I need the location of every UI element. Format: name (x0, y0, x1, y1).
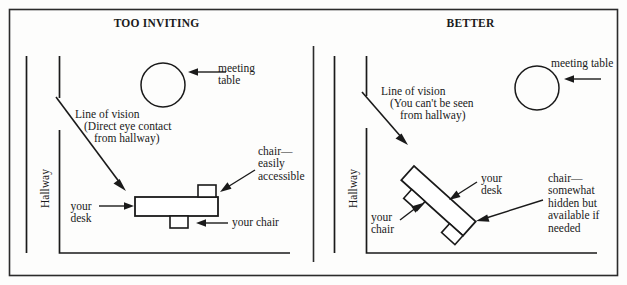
right-hallway-label: Hallway (347, 169, 359, 208)
left-line-of-vision-line1: Line of vision (75, 108, 140, 120)
right-line-of-vision-line1: Line of vision (381, 85, 446, 97)
left-meeting-table-shape (141, 63, 185, 107)
left-desk-shape (135, 197, 218, 216)
left-meeting-table-label: meeting table (218, 62, 255, 87)
left-your-desk-arrow (99, 202, 134, 210)
left-hallway-label: Hallway (39, 169, 51, 208)
right-your-chair-label: your chair (371, 211, 394, 236)
right-your-desk-arrow (449, 182, 477, 200)
right-line-of-vision-line2: (You can't be seen (390, 97, 474, 109)
right-line-of-vision-line3: from hallway) (400, 109, 465, 121)
left-chair-accessible-shape (198, 185, 216, 197)
left-line-of-vision-line2: (Direct eye contact (84, 120, 171, 132)
office-layout-figure: TOO INVITING meeting table Line of visio… (0, 0, 627, 285)
right-meeting-table-arrow (564, 75, 601, 83)
right-panel-title: BETTER (314, 17, 627, 29)
left-your-chair-label: your chair (232, 216, 279, 228)
right-your-desk-label: your desk (481, 172, 502, 197)
left-chair-note-arrow (220, 170, 255, 192)
left-your-chair-arrow (196, 219, 228, 227)
left-panel-title: TOO INVITING (0, 17, 313, 29)
left-chair-note-label: chair— easily accessible (258, 145, 305, 182)
left-line-of-vision-line3: from hallway) (94, 132, 159, 144)
right-chair-note-arrow (476, 200, 543, 222)
left-your-desk-label: your desk (62, 200, 100, 225)
right-meeting-table-label: meeting table (551, 57, 613, 69)
right-desk-group (393, 166, 475, 245)
right-chair-note-label: chair— somewhat hidden but available if … (548, 172, 599, 234)
right-meeting-table-shape (515, 66, 559, 110)
left-your-chair-shape (170, 216, 188, 228)
